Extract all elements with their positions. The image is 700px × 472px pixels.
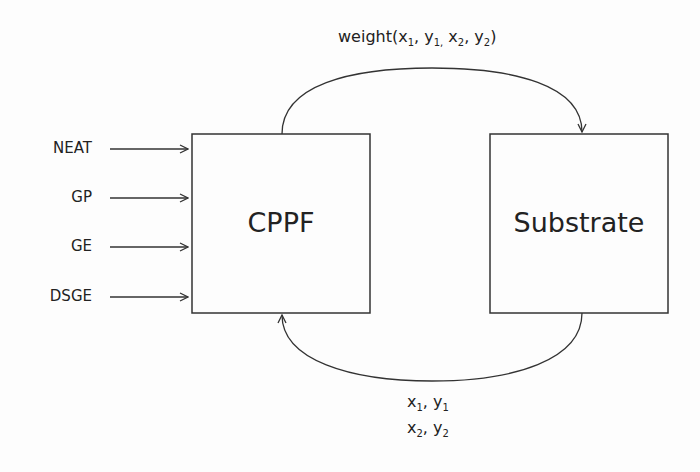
arrow-weight — [282, 68, 582, 134]
input-label-dsge: DSGE — [12, 287, 92, 305]
arrow-coordinates — [282, 313, 582, 381]
coord-label-1: x1, y1 — [407, 392, 449, 413]
coord-label-2: x2, y2 — [407, 418, 449, 439]
substrate-label: Substrate — [490, 207, 668, 238]
input-label-gp: GP — [12, 188, 92, 206]
weight-label: weight(x1, y1, x2, y2) — [338, 27, 496, 48]
cppf-label: CPPF — [192, 207, 370, 238]
input-label-neat: NEAT — [12, 139, 92, 157]
input-label-ge: GE — [12, 237, 92, 255]
